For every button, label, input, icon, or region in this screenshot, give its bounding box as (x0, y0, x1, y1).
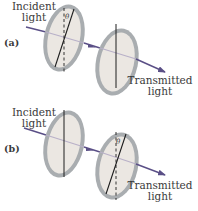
transmitted-beam-arrow (136, 59, 165, 72)
transmitted-light-label-line2: light (148, 85, 173, 97)
panel-label-a: (a) (4, 37, 19, 48)
panel-label-b: (b) (4, 143, 20, 154)
incident-light-label-line2: light (22, 11, 47, 23)
transmitted-beam-arrow (136, 164, 165, 175)
incident-beam (26, 27, 46, 32)
panel-b: Incident light (b) θ Transmitted light (4, 106, 193, 204)
incident-light-label-line2: light (22, 117, 47, 129)
incident-beam (24, 128, 46, 135)
transmitted-light-label-line2: light (148, 190, 173, 202)
polarizer-figure: Incident light (a) θ Transmitted light (0, 0, 198, 211)
second-polarizer (89, 24, 144, 99)
panel-a: Incident light (a) θ Transmitted light (4, 0, 193, 100)
